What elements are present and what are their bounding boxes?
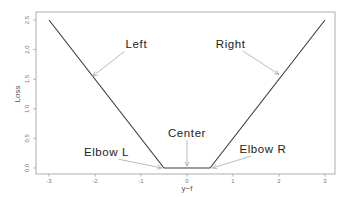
y-tick-label: 1.5 <box>24 74 30 83</box>
annotation-label: Elbow L <box>84 146 129 158</box>
y-tick-label: 2.0 <box>24 45 30 54</box>
y-tick-label: 0.5 <box>24 134 30 143</box>
y-tick-label: 1.0 <box>24 104 30 113</box>
y-axis-label: Loss <box>13 86 22 103</box>
annotation-arrow <box>93 51 125 76</box>
y-axis: 0.00.51.01.52.02.5 <box>24 15 36 172</box>
x-axis: -3-2-10123 <box>46 174 327 184</box>
x-tick-label: 1 <box>231 178 235 184</box>
x-tick-label: 2 <box>277 178 281 184</box>
annotation-label: Left <box>126 38 148 50</box>
x-tick-label: -3 <box>46 178 52 184</box>
x-tick-label: -2 <box>92 178 98 184</box>
loss-chart: -3-2-10123 0.00.51.01.52.02.5 y−f Loss L… <box>0 0 347 197</box>
plot-frame <box>36 12 335 174</box>
y-tick-label: 0.0 <box>24 163 30 172</box>
annotation-label: Center <box>168 127 206 139</box>
y-tick-label: 2.5 <box>24 15 30 24</box>
x-axis-label: y−f <box>182 184 194 193</box>
annotation-arrow <box>119 159 162 168</box>
annotation-label: Elbow R <box>239 143 286 155</box>
x-tick-label: -1 <box>138 178 144 184</box>
arrowhead-icon <box>274 70 279 74</box>
x-tick-label: 3 <box>323 178 327 184</box>
annotation-label: Right <box>216 38 246 50</box>
annotation-arrow <box>243 51 279 75</box>
